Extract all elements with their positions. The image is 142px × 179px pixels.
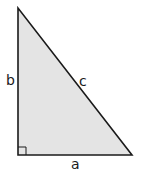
right-triangle-diagram: b c a [0,0,142,179]
triangle-shape [18,8,132,155]
label-b: b [6,72,15,88]
label-a: a [71,156,80,172]
label-c: c [79,73,87,89]
